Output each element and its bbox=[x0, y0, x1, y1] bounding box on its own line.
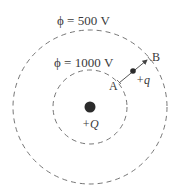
equipotential-500v-label: ϕ = 500 V bbox=[57, 13, 110, 28]
source-charge-label: +Q bbox=[82, 117, 99, 131]
source-charge-dot bbox=[85, 102, 96, 113]
test-charge-dot bbox=[130, 68, 136, 74]
test-charge-label: +q bbox=[136, 73, 150, 87]
point-b-label: B bbox=[152, 50, 160, 64]
equipotential-1000v-label: ϕ = 1000 V bbox=[54, 55, 114, 70]
point-a-label: A bbox=[109, 79, 118, 93]
equipotential-diagram: ϕ = 500 V ϕ = 1000 V +Q +q A B bbox=[0, 0, 176, 194]
point-b-tick bbox=[148, 57, 151, 61]
